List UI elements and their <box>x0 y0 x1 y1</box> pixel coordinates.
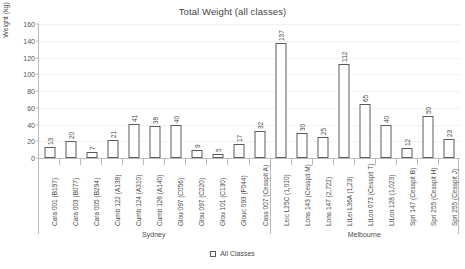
bar[interactable] <box>339 64 350 158</box>
bar[interactable] <box>381 125 392 159</box>
bar-value-label: 112 <box>341 52 348 62</box>
bar-group: 38 <box>144 24 165 158</box>
bar-value-label: 25 <box>320 128 327 135</box>
bar-group: 32 <box>250 24 271 158</box>
x-tick-label: LtLon 128 (1,023) <box>388 175 395 226</box>
bar-value-label: 40 <box>383 115 390 122</box>
x-tick-mark <box>354 158 355 165</box>
x-tick-label: Leic L25C (1,010) <box>283 174 290 226</box>
bar-group: 7 <box>81 24 102 158</box>
chart-legend: All Classes <box>0 250 465 257</box>
y-tick-label: 0 <box>31 155 35 162</box>
x-tick-mark <box>375 158 376 165</box>
x-axis-labels: Cara 001 (B197)Cara 003 (B077)Cara 005 (… <box>38 166 460 228</box>
x-tick-mark <box>438 158 439 165</box>
y-tick-label: 20 <box>27 138 35 145</box>
bar[interactable] <box>233 144 244 158</box>
x-axis-group-label: Sydney <box>142 231 165 238</box>
chart-title: Total Weight (all classes) <box>0 6 465 17</box>
x-tick-mark <box>101 158 102 165</box>
bar-value-label: 32 <box>257 122 264 129</box>
bar-value-label: 13 <box>47 138 54 145</box>
bar-value-label: 40 <box>173 115 180 122</box>
x-tick-label: Glouc 093 (F044) <box>240 175 247 226</box>
x-tick-label: Glou 097 (C056) <box>177 178 184 226</box>
x-axis-group-label: Melbourne <box>348 231 381 238</box>
bar-group: 20 <box>60 24 81 158</box>
bar[interactable] <box>170 125 181 159</box>
y-tick-label: 100 <box>23 71 35 78</box>
x-axis-group-labels: SydneyMelbourne <box>38 231 460 243</box>
bar-group: 17 <box>228 24 249 158</box>
bar-value-label: 137 <box>278 30 285 41</box>
bar-value-label: 21 <box>110 131 117 138</box>
bar-value-label: 23 <box>446 130 453 137</box>
bar-group: 40 <box>165 24 186 158</box>
x-tick-mark <box>396 158 397 165</box>
bar[interactable] <box>444 139 455 158</box>
bar[interactable] <box>255 131 266 158</box>
y-tick-label: 140 <box>23 37 35 44</box>
bar-value-label: 7 <box>89 147 96 151</box>
x-tick-label: Cumb 126 (A140) <box>156 175 163 226</box>
bar-group: 137 <box>271 24 292 158</box>
x-tick-label: LtLei L36A (1,23) <box>346 176 353 226</box>
x-tick-mark <box>164 158 165 165</box>
x-tick-label: Cara 003 (B077) <box>72 178 79 226</box>
bar[interactable] <box>149 126 160 158</box>
bar[interactable] <box>191 150 202 158</box>
bar[interactable] <box>318 137 329 158</box>
x-tick-mark <box>59 158 60 165</box>
bar-group: 65 <box>355 24 376 158</box>
x-tick-label: Spri 255 (Cesspit H) <box>430 167 437 226</box>
bar-group: 12 <box>397 24 418 158</box>
y-axis-title: Weight (kg) <box>2 0 9 50</box>
x-tick-label: Cumb 124 (A310) <box>135 175 142 226</box>
bar-group: 40 <box>376 24 397 158</box>
y-tick-label: 120 <box>23 54 35 61</box>
bar-value-label: 5 <box>215 148 222 152</box>
x-tick-label: Cara 005 (B294) <box>93 178 100 226</box>
y-tick-label: 80 <box>27 88 35 95</box>
bar[interactable] <box>44 147 55 158</box>
bar[interactable] <box>107 140 118 158</box>
x-tick-mark <box>333 158 334 165</box>
bar-group: 9 <box>186 24 207 158</box>
bar-group: 30 <box>292 24 313 158</box>
bar[interactable] <box>276 43 287 158</box>
bar-value-label: 12 <box>404 139 411 146</box>
x-tick-mark <box>312 158 313 165</box>
bar-value-label: 65 <box>362 94 369 101</box>
bar-value-label: 38 <box>152 117 159 124</box>
bar-value-label: 17 <box>236 135 243 142</box>
x-tick-label: Spri 147 (Cesspit B) <box>409 168 416 226</box>
bar[interactable] <box>423 116 434 158</box>
bar[interactable] <box>360 104 371 158</box>
x-tick-mark <box>122 158 123 165</box>
bars-layer: 132072141384095173213730251126540125023 <box>39 24 460 158</box>
bar-value-label: 50 <box>425 107 432 114</box>
bar[interactable] <box>128 124 139 158</box>
x-tick-label: LtLon 073 (Cesspit T) <box>367 164 374 226</box>
bar-value-label: 20 <box>68 132 75 139</box>
x-tick-label: Glou 097 (C220) <box>198 178 205 226</box>
bar-group: 21 <box>102 24 123 158</box>
bar[interactable] <box>65 141 76 158</box>
bar[interactable] <box>297 133 308 158</box>
bar-group: 13 <box>39 24 60 158</box>
x-tick-mark <box>185 158 186 165</box>
x-tick-label: Cara 001 (B197) <box>51 178 58 226</box>
x-tick-label: Glou 101 (C130) <box>219 178 226 226</box>
x-tick-mark <box>249 158 250 165</box>
bar-group: 112 <box>334 24 355 158</box>
bar[interactable] <box>402 148 413 158</box>
y-tick-label: 40 <box>27 121 35 128</box>
x-tick-mark <box>206 158 207 165</box>
bar-value-label: 41 <box>131 114 138 121</box>
bar-group: 50 <box>418 24 439 158</box>
bar-value-label: 9 <box>194 145 201 149</box>
x-tick-label: Lons 143 (Cesspit M) <box>304 164 311 226</box>
legend-swatch-icon <box>210 251 216 257</box>
x-tick-mark <box>291 158 292 165</box>
bar-group: 25 <box>313 24 334 158</box>
